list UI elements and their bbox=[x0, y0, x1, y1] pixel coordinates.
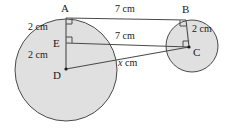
point-label-a: A bbox=[61, 3, 69, 14]
measurement-ec: 7 cm bbox=[115, 31, 135, 41]
vertex-dot-d bbox=[64, 67, 67, 70]
measurement-bc: 2 cm bbox=[192, 24, 212, 34]
geometry-figure: A B C D E 7 cm 7 cm x cm 2 cm 2 cm 2 cm bbox=[0, 0, 227, 132]
point-label-d: D bbox=[53, 70, 61, 81]
measurement-dc-unit: cm bbox=[125, 57, 137, 68]
measurement-dc: x cm bbox=[118, 58, 137, 68]
measurement-dc-symbol: x bbox=[118, 57, 122, 68]
vertex-dot-c bbox=[187, 45, 190, 48]
measurement-ae: 2 cm bbox=[28, 22, 48, 32]
point-label-e: E bbox=[53, 38, 60, 49]
segment-ab bbox=[66, 18, 186, 20]
point-label-b: B bbox=[182, 4, 189, 15]
measurement-ab: 7 cm bbox=[115, 4, 135, 14]
point-label-c: C bbox=[193, 47, 200, 58]
figure-canvas bbox=[0, 0, 227, 132]
measurement-ed: 2 cm bbox=[28, 50, 48, 60]
